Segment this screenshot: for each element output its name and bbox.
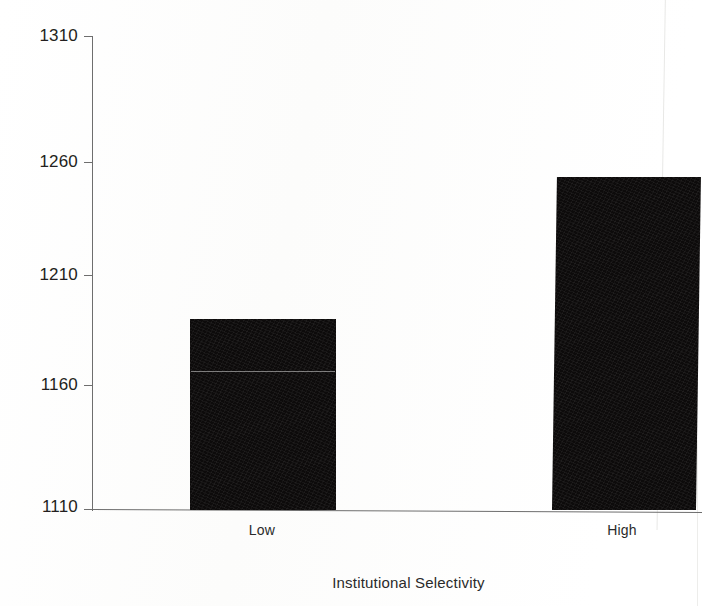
y-axis-label-1160: 1160 bbox=[16, 375, 78, 395]
y-tick-1310 bbox=[84, 36, 93, 37]
y-axis-label-1310: 1310 bbox=[16, 26, 78, 46]
y-axis-label-1260: 1260 bbox=[16, 152, 78, 172]
cropped-caption-fragment bbox=[410, 0, 670, 9]
y-axis-line bbox=[92, 36, 93, 511]
y-tick-1110 bbox=[84, 509, 93, 510]
x-axis-category-label-high: High bbox=[562, 522, 682, 538]
y-tick-1260 bbox=[84, 162, 93, 163]
x-axis-title-wrap: Institutional Selectivity bbox=[0, 574, 713, 591]
y-axis-label-1210: 1210 bbox=[16, 265, 78, 285]
bar-chart-figure: 1310 1260 1210 1160 1110 Low High Instit… bbox=[0, 0, 713, 606]
x-axis-title: Institutional Selectivity bbox=[332, 574, 485, 591]
y-axis-label-1110: 1110 bbox=[16, 497, 78, 517]
y-tick-1160 bbox=[84, 385, 93, 386]
bar-high bbox=[552, 177, 701, 510]
x-axis-category-label-low: Low bbox=[202, 522, 322, 538]
bar-low bbox=[190, 319, 336, 510]
y-tick-1210 bbox=[84, 275, 93, 276]
